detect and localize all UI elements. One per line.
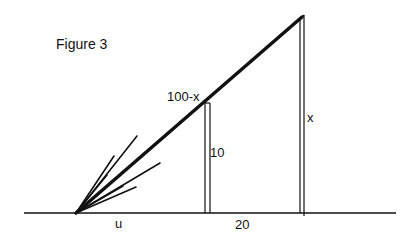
tall-pole — [300, 15, 304, 216]
ground-distance-label: u — [115, 217, 122, 230]
tall-pole-label: x — [307, 111, 314, 124]
pole-gap-label: 20 — [235, 218, 249, 231]
figure-title: Figure 3 — [56, 37, 107, 51]
short-pole-label: 10 — [210, 146, 224, 159]
hypotenuse-segment-label: 100-x — [167, 90, 200, 103]
diagonal-beam — [76, 17, 302, 213]
